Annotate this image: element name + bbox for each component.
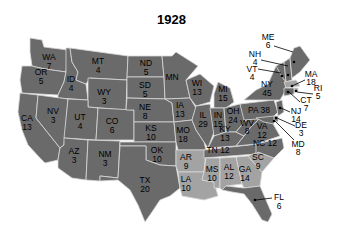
label-ga-ev: 14: [240, 173, 250, 183]
label-ok-ev: 10: [152, 154, 162, 164]
label-ri-ev: 5: [316, 91, 321, 101]
label-wa-ev: 7: [47, 61, 52, 71]
label-ky-ev: 13: [220, 133, 230, 143]
state-fl[interactable]: [222, 186, 272, 222]
label-ca-ev: 13: [22, 122, 32, 132]
dot-ct: [287, 91, 290, 94]
label-co-ev: 6: [110, 125, 115, 135]
dot-ri: [295, 90, 298, 93]
label-md-ev: 8: [296, 147, 301, 157]
dot-me: [293, 61, 296, 64]
leader-ri: [297, 92, 313, 94]
label-ar-ev: 9: [184, 161, 189, 171]
leader-ct: [289, 92, 300, 102]
label-mo-ev: 18: [178, 134, 188, 144]
label-ks-ev: 10: [146, 132, 156, 142]
label-or-ev: 5: [39, 76, 44, 86]
us-electoral-map: WA 7 OR 5 CA 13 ID 4 NV 3 MT 4 WY 3 UT 4…: [0, 0, 343, 237]
dot-fl: [254, 199, 257, 202]
label-ut-ev: 4: [78, 121, 83, 131]
label-tn: TN 12: [206, 145, 229, 155]
label-sd-ev: 5: [143, 89, 148, 99]
label-nd-ev: 5: [144, 67, 149, 77]
label-wy-ev: 3: [102, 96, 107, 106]
label-ny-ev: 45: [262, 88, 272, 98]
label-ct-ev: 7: [304, 103, 309, 113]
label-vt-ev: 4: [250, 72, 255, 82]
label-il-ev: 29: [198, 119, 208, 129]
label-sc-ev: 9: [256, 161, 261, 171]
label-id-ev: 4: [69, 83, 74, 93]
dot-nj: [279, 107, 282, 110]
label-tx-ev: 20: [140, 184, 150, 194]
label-mt-ev: 4: [96, 65, 101, 75]
label-al-ev: 12: [224, 171, 234, 181]
label-nm-ev: 3: [103, 158, 108, 168]
label-mn-abbr: MN: [165, 72, 178, 82]
label-az-ev: 3: [72, 155, 77, 165]
label-va-ev: 12: [257, 130, 267, 140]
label-mi-ev: 15: [218, 93, 228, 103]
label-ne-ev: 8: [143, 111, 148, 121]
label-wv-ev: 8: [245, 126, 250, 136]
label-fl-ev: 6: [277, 201, 282, 211]
label-ms-ev: 10: [207, 173, 217, 183]
label-wi-ev: 13: [192, 87, 202, 97]
dot-md: [273, 120, 276, 123]
label-nv-ev: 3: [51, 115, 56, 125]
label-ia-ev: 13: [175, 109, 185, 119]
label-pa: PA 38: [248, 105, 270, 115]
dot-ma: [291, 85, 294, 88]
label-de-ev: 3: [299, 128, 304, 138]
dot-de: [275, 117, 278, 120]
dot-nh: [287, 74, 290, 77]
label-me-ev: 6: [266, 40, 271, 50]
dot-vt: [281, 75, 284, 78]
label-la-ev: 10: [181, 183, 191, 193]
leader-me: [274, 46, 293, 52]
